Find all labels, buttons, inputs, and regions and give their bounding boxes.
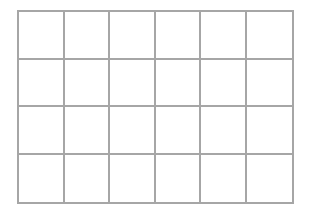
grid-cell	[19, 155, 65, 203]
grid-cell	[19, 60, 65, 108]
grid-cell	[201, 60, 247, 108]
grid-cell	[247, 155, 293, 203]
grid-cell	[110, 12, 156, 60]
grid-cell	[110, 107, 156, 155]
grid-cell	[19, 12, 65, 60]
grid-cell	[65, 107, 111, 155]
grid-cell	[65, 12, 111, 60]
grid-cell	[110, 155, 156, 203]
grid-cell	[247, 60, 293, 108]
grid-cell	[156, 155, 202, 203]
grid-cell	[247, 12, 293, 60]
grid-cell	[156, 107, 202, 155]
grid-cell	[156, 12, 202, 60]
empty-grid-table	[17, 10, 294, 204]
grid-cell	[65, 155, 111, 203]
grid-cell	[110, 60, 156, 108]
grid-cell	[156, 60, 202, 108]
grid-cell	[65, 60, 111, 108]
grid-cell	[201, 12, 247, 60]
grid-cell	[19, 107, 65, 155]
grid-cell	[201, 155, 247, 203]
grid-cell	[201, 107, 247, 155]
grid-cell	[247, 107, 293, 155]
